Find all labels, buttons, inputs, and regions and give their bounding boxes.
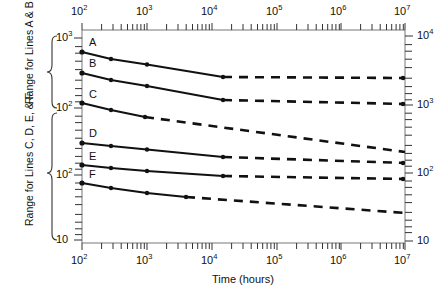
- left-tick-label-lower-1e1: 10: [56, 234, 68, 245]
- right-tick-label-1e2: 102: [417, 167, 433, 178]
- top-tick-label-1e5: 105: [266, 6, 282, 17]
- series-label-D: D: [89, 127, 97, 139]
- right-axis-ticks: [405, 36, 413, 241]
- series-A: [79, 49, 405, 80]
- series-C: [79, 100, 405, 152]
- left-brace-label-lower: Range for Lines C, D, E, & F: [24, 108, 36, 226]
- series-label-B: B: [89, 57, 96, 69]
- right-tick-label-1e4: 104: [417, 30, 433, 41]
- bottom-tick-label-1e2: 102: [71, 255, 87, 266]
- right-tick-label-1e3: 103: [417, 99, 433, 110]
- left-tick-label-lower-1e2: 102: [56, 169, 72, 180]
- series-label-C: C: [89, 88, 97, 100]
- top-tick-label-1e7: 107: [394, 6, 410, 17]
- chart-plot-area: [0, 0, 442, 293]
- series-A-markers: [79, 49, 405, 80]
- left-tick-label-upper-1e2: 102: [56, 102, 72, 113]
- series-label-E: E: [89, 150, 96, 162]
- bottom-axis-ticks: [82, 243, 405, 250]
- left-axis-ticks: [74, 38, 82, 240]
- left-tick-label-upper-1e3: 103: [56, 32, 72, 43]
- top-tick-label-1e2: 102: [71, 6, 87, 17]
- series-B: [79, 70, 405, 106]
- series-F: [79, 180, 405, 213]
- bottom-tick-label-1e5: 105: [266, 255, 282, 266]
- top-tick-label-1e3: 103: [136, 6, 152, 17]
- top-axis-ticks: [82, 23, 405, 30]
- bottom-tick-label-1e7: 107: [394, 255, 410, 266]
- top-tick-label-1e4: 104: [201, 6, 217, 17]
- series-label-F: F: [89, 168, 96, 180]
- x-axis-title: Time (hours): [212, 273, 274, 285]
- chart-figure: 102 103 104 105 106 107 102 103 104 105 …: [0, 0, 442, 293]
- bottom-tick-label-1e3: 103: [136, 255, 152, 266]
- bottom-tick-label-1e4: 104: [201, 255, 217, 266]
- series-label-A: A: [89, 36, 96, 48]
- right-tick-label-1e1: 10: [417, 235, 429, 246]
- top-tick-label-1e6: 106: [330, 6, 346, 17]
- series-E: [79, 162, 405, 181]
- series-D: [79, 140, 405, 165]
- left-brace-label-upper: Range for Lines A & B: [24, 16, 36, 104]
- bottom-tick-label-1e6: 106: [330, 255, 346, 266]
- left-brace-upper: [47, 36, 57, 108]
